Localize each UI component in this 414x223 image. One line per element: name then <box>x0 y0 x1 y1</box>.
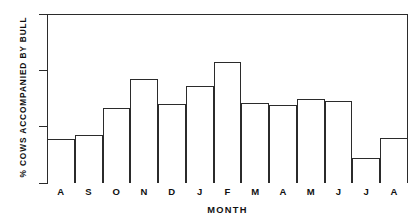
bar-cell <box>75 14 103 183</box>
bar-f-6 <box>214 62 242 183</box>
x-tick-label-11: J <box>352 186 380 197</box>
x-tick-label-12: A <box>380 186 408 197</box>
bar-cell <box>297 14 325 183</box>
bar-d-4 <box>158 104 186 183</box>
bars-layer <box>47 14 408 183</box>
bar-o-2 <box>103 108 131 183</box>
x-tick-label-7: M <box>241 186 269 197</box>
bar-cell <box>186 14 214 183</box>
bar-cell <box>130 14 158 183</box>
bar-cell <box>352 14 380 183</box>
x-tick-label-5: J <box>186 186 214 197</box>
bar-cell <box>214 14 242 183</box>
x-axis-tick-labels: ASONDJFMAMJJA <box>47 186 408 197</box>
bar-a-8 <box>269 105 297 183</box>
bar-j-5 <box>186 86 214 183</box>
bar-cell <box>269 14 297 183</box>
x-tick-label-1: S <box>75 186 103 197</box>
bar-m-7 <box>241 103 269 183</box>
bar-cell <box>103 14 131 183</box>
x-tick-label-9: M <box>297 186 325 197</box>
bar-cell <box>325 14 353 183</box>
y-axis-title: % COWS ACCOMPANIED BY BULL <box>18 2 28 192</box>
x-tick-label-0: A <box>47 186 75 197</box>
bar-cell <box>47 14 75 183</box>
bar-cell <box>241 14 269 183</box>
x-tick-label-4: D <box>158 186 186 197</box>
bar-chart-figure: % COWS ACCOMPANIED BY BULL 30 20 10 0 AS… <box>0 0 414 223</box>
bar-a-0 <box>47 139 75 183</box>
x-tick-label-2: O <box>103 186 131 197</box>
x-axis-title: MONTH <box>47 205 408 215</box>
bar-a-12 <box>380 138 408 183</box>
bar-cell <box>158 14 186 183</box>
x-tick-label-10: J <box>325 186 353 197</box>
bar-j-10 <box>325 101 353 183</box>
bar-cell <box>380 14 408 183</box>
bar-s-1 <box>75 135 103 183</box>
x-tick-label-3: N <box>130 186 158 197</box>
x-tick-label-8: A <box>269 186 297 197</box>
bar-n-3 <box>130 79 158 183</box>
bar-j-11 <box>352 158 380 183</box>
bar-m-9 <box>297 99 325 183</box>
x-tick-label-6: F <box>214 186 242 197</box>
